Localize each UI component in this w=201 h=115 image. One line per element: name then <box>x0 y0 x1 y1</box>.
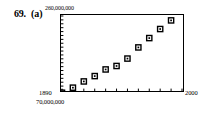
data-point-center-dot <box>105 69 107 71</box>
data-point-center-dot <box>72 87 74 89</box>
figure-69a: 69. (a) 260,000,000 1890 70,000,000 2000 <box>0 0 201 115</box>
data-point <box>168 18 173 23</box>
data-point <box>92 73 97 78</box>
data-point <box>70 85 75 90</box>
data-point-center-dot <box>148 37 150 39</box>
data-point-center-dot <box>170 20 172 22</box>
plot-area <box>61 15 183 91</box>
data-point-center-dot <box>127 58 129 60</box>
data-point <box>147 35 152 40</box>
data-point-center-dot <box>94 75 96 77</box>
y-axis-max-label: 260,000,000 <box>45 5 74 12</box>
data-point <box>114 63 119 68</box>
data-point <box>81 79 86 84</box>
data-point <box>103 67 108 72</box>
y-axis-min-label: 70,000,000 <box>36 98 64 105</box>
data-point <box>136 45 141 50</box>
problem-number: 69. <box>14 8 26 19</box>
data-point-center-dot <box>138 47 140 49</box>
data-point-square <box>61 90 65 91</box>
x-axis-min-label: 1890 <box>39 89 52 96</box>
part-label: (a) <box>31 8 43 19</box>
plot-frame <box>60 14 184 92</box>
data-point-center-dot <box>159 28 161 30</box>
data-point <box>158 26 163 31</box>
scatter-plot-svg <box>61 15 183 91</box>
data-point-center-dot <box>116 65 118 67</box>
data-point <box>61 90 65 91</box>
data-point <box>125 56 130 61</box>
data-point-center-dot <box>83 81 85 83</box>
x-axis-max-label: 2000 <box>185 89 198 96</box>
